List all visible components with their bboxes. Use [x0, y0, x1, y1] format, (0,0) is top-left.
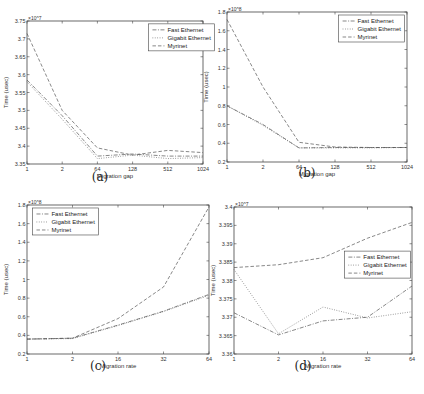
- y-tick-label: 3.35: [15, 161, 26, 167]
- chart-panel-a: 3.353.43.453.53.553.63.653.73.7512641285…: [0, 11, 215, 186]
- y-tick-label: 0.2: [18, 351, 26, 357]
- y-tick-label: 3.36: [222, 351, 233, 357]
- y-tick-label: 0.4: [18, 332, 26, 338]
- legend-entry: Myrinet: [51, 227, 71, 233]
- y-tick-label: 1.6: [18, 221, 26, 227]
- chart-svg-b: 0.20.40.60.811.21.41.61.812641285121024×…: [197, 2, 419, 184]
- y-tick-label: 0.6: [218, 122, 226, 128]
- y-tick-label: 3.375: [219, 296, 233, 302]
- legend-entry: Fast Ethernet: [363, 254, 399, 260]
- x-tick-label: 1: [25, 356, 28, 362]
- y-tick-label: 0.8: [18, 295, 26, 301]
- series-line-myrinet: [27, 34, 203, 156]
- y-tick-label: 1.4: [18, 239, 26, 245]
- legend-entry: Myrinet: [167, 43, 187, 49]
- y-tick-label: 0.2: [218, 159, 226, 165]
- caption-d: (d): [273, 359, 333, 373]
- caption-b: (b): [277, 166, 337, 180]
- legend-entry: Myrinet: [363, 270, 383, 276]
- x-tick-label: 64: [409, 356, 415, 362]
- x-tick-label: 512: [163, 166, 172, 172]
- y-tick-label: 3.37: [222, 314, 233, 320]
- x-tick-label: 2: [261, 164, 264, 170]
- series-line-gigabit-ethernet: [27, 82, 203, 159]
- chart-svg-a: 3.353.43.453.53.553.63.653.73.7512641285…: [0, 11, 215, 186]
- y-tick-label: 1: [222, 84, 225, 90]
- caption-c: (c): [68, 359, 128, 373]
- series-line-fast-ethernet: [234, 286, 412, 335]
- x-tick-label: 32: [160, 356, 166, 362]
- caption-a: (a): [70, 170, 130, 184]
- legend-entry: Fast Ethernet: [51, 211, 87, 217]
- x-tick-label: 512: [366, 164, 375, 170]
- y-axis-label: Time (usec): [210, 265, 216, 296]
- chart-panel-c: 0.20.40.60.811.21.41.61.812163264×10^8Mi…: [0, 195, 221, 376]
- y-tick-label: 3.39: [222, 241, 233, 247]
- y-multiplier: ×10^8: [28, 199, 42, 205]
- y-tick-label: 3.45: [15, 125, 26, 131]
- y-tick-label: 1.2: [218, 65, 226, 71]
- y-axis-label: Time (usec): [203, 71, 209, 102]
- y-tick-label: 3.6: [18, 72, 26, 78]
- chart-svg-c: 0.20.40.60.811.21.41.61.812163264×10^8Mi…: [0, 195, 221, 376]
- y-axis-label: Time (usec): [3, 77, 9, 108]
- y-axis-label: Time (usec): [3, 264, 9, 295]
- x-tick-label: 1: [232, 356, 235, 362]
- plot-frame: [234, 207, 412, 354]
- legend-entry: Myrinet: [358, 34, 378, 40]
- x-tick-label: 1: [225, 164, 228, 170]
- y-tick-label: 1.8: [18, 202, 26, 208]
- y-tick-label: 3.65: [15, 54, 26, 60]
- y-tick-label: 1.6: [218, 28, 226, 34]
- y-tick-label: 0.4: [218, 140, 226, 146]
- y-multiplier: ×10^7: [28, 15, 42, 21]
- legend-entry: Fast Ethernet: [358, 18, 394, 24]
- legend: Fast EthernetGigabit EthernetMyrinet: [344, 251, 410, 278]
- y-tick-label: 3.4: [225, 204, 233, 210]
- legend-entry: Gigabit Ethernet: [358, 26, 402, 32]
- y-tick-label: 3.75: [15, 18, 26, 24]
- chart-panel-b: 0.20.40.60.811.21.41.61.812641285121024×…: [197, 2, 419, 184]
- legend: Fast EthernetGigabit EthernetMyrinet: [339, 15, 405, 42]
- series-line-fast-ethernet: [227, 106, 407, 148]
- y-tick-label: 0.8: [218, 103, 226, 109]
- chart-svg-d: 3.363.3653.373.3753.383.3853.393.3953.41…: [204, 197, 424, 376]
- y-tick-label: 3.7: [18, 36, 26, 42]
- y-multiplier: ×10^7: [235, 201, 249, 207]
- series-line-fast-ethernet: [27, 294, 209, 339]
- x-tick-label: 1024: [401, 164, 413, 170]
- chart-panel-d: 3.363.3653.373.3753.383.3853.393.3953.41…: [204, 197, 424, 376]
- y-tick-label: 3.4: [18, 143, 26, 149]
- x-tick-label: 2: [61, 166, 64, 172]
- y-tick-label: 3.365: [219, 333, 233, 339]
- series-line-gigabit-ethernet: [234, 270, 412, 334]
- x-tick-label: 1: [25, 166, 28, 172]
- y-tick-label: 3.38: [222, 278, 233, 284]
- y-tick-label: 1.4: [218, 47, 226, 53]
- y-tick-label: 3.385: [219, 259, 233, 265]
- series-line-gigabit-ethernet: [27, 295, 209, 339]
- y-tick-label: 3.395: [219, 222, 233, 228]
- y-multiplier: ×10^8: [228, 6, 242, 12]
- legend-entry: Gigabit Ethernet: [363, 262, 407, 268]
- y-tick-label: 3.5: [18, 107, 26, 113]
- y-tick-label: 0.6: [18, 314, 26, 320]
- y-tick-label: 1.2: [18, 258, 26, 264]
- legend: Fast EthernetGigabit EthernetMyrinet: [32, 208, 98, 235]
- y-tick-label: 3.55: [15, 90, 26, 96]
- y-tick-label: 1.8: [218, 9, 226, 15]
- legend-entry: Gigabit Ethernet: [51, 219, 95, 225]
- series-line-gigabit-ethernet: [227, 106, 407, 148]
- x-tick-label: 32: [364, 356, 370, 362]
- y-tick-label: 1: [22, 277, 25, 283]
